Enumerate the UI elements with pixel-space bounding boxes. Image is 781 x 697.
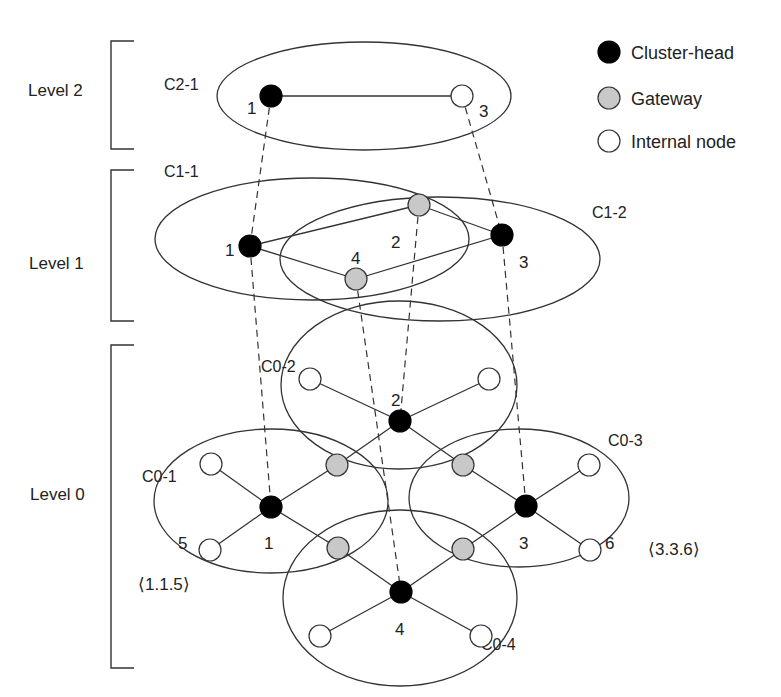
cluster-label-c0-1: C0-1 bbox=[142, 468, 177, 485]
cluster-head-node bbox=[515, 495, 537, 517]
node-label: 6 bbox=[605, 534, 614, 553]
node-label: 1 bbox=[264, 534, 273, 553]
legend-gateway-icon bbox=[598, 87, 620, 109]
node-label: 4 bbox=[395, 620, 404, 639]
gateway-node bbox=[326, 454, 348, 476]
legend-internal-node-icon bbox=[598, 130, 620, 152]
internal-node bbox=[299, 368, 321, 390]
cluster-label-c0-2: C0-2 bbox=[261, 358, 296, 375]
internal-node bbox=[200, 453, 222, 475]
internal-node bbox=[199, 539, 221, 561]
node-label: 3 bbox=[519, 253, 528, 272]
cluster-label-c1-2: C1-2 bbox=[592, 204, 627, 221]
level-2-label: Level 2 bbox=[28, 81, 83, 100]
mapping-l1-1-to-l0-1 bbox=[250, 246, 271, 507]
node-label: 1 bbox=[225, 241, 234, 260]
gateway-node bbox=[408, 194, 430, 216]
edge bbox=[271, 465, 337, 507]
internal-node bbox=[470, 625, 492, 647]
internal-node bbox=[478, 368, 500, 390]
level-0-bracket bbox=[111, 345, 134, 668]
node-label: 3 bbox=[479, 102, 488, 121]
address-label-3-3-6: ⟨3.3.6⟩ bbox=[648, 540, 700, 559]
cluster-head-node bbox=[390, 581, 412, 603]
cluster-head-node bbox=[491, 224, 513, 246]
edge bbox=[320, 592, 401, 636]
level-1-label: Level 1 bbox=[29, 254, 84, 273]
node-label: 5 bbox=[178, 534, 187, 553]
legend-label-cluster-head: Cluster-head bbox=[631, 43, 734, 63]
internal-node bbox=[451, 85, 473, 107]
edge bbox=[526, 506, 590, 550]
node-label: 2 bbox=[391, 391, 400, 410]
node-label: 3 bbox=[519, 534, 528, 553]
cluster-head-node bbox=[260, 496, 282, 518]
edge-l1-1-4 bbox=[250, 246, 356, 279]
edge bbox=[401, 592, 481, 636]
cluster-label-c0-3: C0-3 bbox=[608, 432, 643, 449]
cluster-head-node bbox=[389, 410, 411, 432]
cluster-head-node bbox=[239, 235, 261, 257]
mapping-l1-2-to-l0-2 bbox=[400, 205, 419, 421]
legend-cluster-head-icon bbox=[598, 41, 620, 63]
gateway-node bbox=[345, 268, 367, 290]
legend-label-internal-node: Internal node bbox=[631, 132, 736, 152]
legend: Cluster-head Gateway Internal node bbox=[598, 41, 736, 152]
edge-l1-4-3 bbox=[356, 235, 502, 279]
edge-l1-2-3 bbox=[419, 205, 502, 235]
edge bbox=[400, 379, 489, 421]
internal-node bbox=[578, 454, 600, 476]
edge bbox=[271, 507, 338, 548]
cluster-label-c2-1: C2-1 bbox=[164, 76, 199, 93]
edge bbox=[310, 379, 400, 421]
level-0-label: Level 0 bbox=[30, 485, 85, 504]
node-label: 2 bbox=[391, 233, 400, 252]
cluster-head-node bbox=[260, 85, 282, 107]
level-1-bracket bbox=[111, 170, 134, 321]
address-label-1-1-5: ⟨1.1.5⟩ bbox=[138, 575, 190, 594]
level-2-bracket bbox=[111, 41, 134, 149]
node-label: 1 bbox=[247, 99, 256, 118]
mapping-l1-3-to-l0-3 bbox=[502, 235, 526, 506]
legend-label-gateway: Gateway bbox=[631, 89, 702, 109]
node-label: 4 bbox=[351, 249, 360, 268]
cluster-label-c1-1: C1-1 bbox=[164, 163, 199, 180]
internal-node bbox=[579, 539, 601, 561]
internal-node bbox=[309, 625, 331, 647]
gateway-node bbox=[452, 454, 474, 476]
hierarchical-cluster-diagram: Level 2 Level 1 Level 0 C2-1 C1-1 C1-2 C… bbox=[0, 0, 781, 697]
gateway-node bbox=[452, 538, 474, 560]
cluster-c1-2 bbox=[280, 197, 600, 321]
mapping-l2-1-to-l1-1 bbox=[250, 96, 271, 246]
gateway-node bbox=[327, 537, 349, 559]
